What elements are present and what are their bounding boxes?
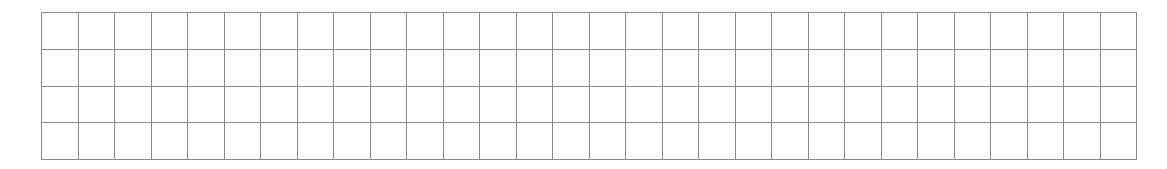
- grid-cell: [1064, 50, 1101, 87]
- grid-cell: [517, 13, 554, 50]
- grid-cell: [772, 50, 809, 87]
- grid-cell: [553, 87, 590, 124]
- grid-cell: [590, 13, 627, 50]
- grid-cell: [663, 13, 700, 50]
- grid-cell: [1028, 50, 1065, 87]
- grid-cell: [225, 123, 262, 160]
- grid-cell: [225, 50, 262, 87]
- grid-cell: [590, 87, 627, 124]
- grid-cell: [444, 50, 481, 87]
- grid-cell: [955, 13, 992, 50]
- grid-cell: [517, 123, 554, 160]
- grid-cell: [663, 50, 700, 87]
- grid-cell: [955, 123, 992, 160]
- grid-cell: [152, 13, 189, 50]
- grid-cell: [1101, 87, 1138, 124]
- grid-cell: [736, 123, 773, 160]
- grid-cell: [79, 13, 116, 50]
- grid-cell: [955, 87, 992, 124]
- grid-cell: [809, 50, 846, 87]
- grid-cell: [845, 13, 882, 50]
- grid-cell: [736, 50, 773, 87]
- grid-cell: [371, 123, 408, 160]
- grid-cell: [517, 50, 554, 87]
- grid-cell: [772, 123, 809, 160]
- grid-cell: [590, 50, 627, 87]
- grid-cell: [845, 50, 882, 87]
- grid-cell: [663, 123, 700, 160]
- grid-cell: [480, 87, 517, 124]
- grid-cell: [517, 87, 554, 124]
- grid-cell: [188, 87, 225, 124]
- grid-cell: [809, 13, 846, 50]
- grid-cell: [115, 123, 152, 160]
- grid-cell: [1064, 123, 1101, 160]
- grid-cell: [115, 50, 152, 87]
- grid-cell: [444, 123, 481, 160]
- grid-cell: [882, 13, 919, 50]
- grid-cell: [845, 123, 882, 160]
- grid-cell: [407, 50, 444, 87]
- grid-cell: [1028, 87, 1065, 124]
- grid-cell: [772, 13, 809, 50]
- grid-cell: [298, 87, 335, 124]
- grid-cell: [42, 87, 79, 124]
- grid-cell: [298, 123, 335, 160]
- grid-cell: [480, 123, 517, 160]
- grid-cell: [553, 50, 590, 87]
- grid-cell: [663, 87, 700, 124]
- grid-cell: [79, 87, 116, 124]
- grid-cell: [1064, 13, 1101, 50]
- grid-cell: [261, 50, 298, 87]
- grid-cell: [918, 123, 955, 160]
- grid-cell: [407, 13, 444, 50]
- grid-cell: [918, 13, 955, 50]
- grid-cell: [371, 50, 408, 87]
- grid-cell: [736, 13, 773, 50]
- grid-cell: [1064, 87, 1101, 124]
- grid-cell: [334, 87, 371, 124]
- grid-cell: [444, 87, 481, 124]
- grid-cell: [79, 50, 116, 87]
- grid-cell: [809, 123, 846, 160]
- grid-cell: [334, 50, 371, 87]
- grid-cell: [371, 13, 408, 50]
- grid-cell: [188, 50, 225, 87]
- grid-cell: [261, 13, 298, 50]
- grid-cell: [42, 13, 79, 50]
- grid-cell: [736, 87, 773, 124]
- grid-cell: [480, 13, 517, 50]
- grid-cell: [152, 87, 189, 124]
- grid-cell: [334, 13, 371, 50]
- grid-cell: [809, 87, 846, 124]
- grid-cell: [444, 13, 481, 50]
- grid-cell: [626, 13, 663, 50]
- grid-cell: [918, 87, 955, 124]
- grid-cell: [955, 50, 992, 87]
- grid-cell: [991, 50, 1028, 87]
- grid-cell: [152, 50, 189, 87]
- grid-cell: [553, 13, 590, 50]
- grid-cell: [699, 123, 736, 160]
- grid-cell: [152, 123, 189, 160]
- grid-cell: [1101, 123, 1138, 160]
- grid-cell: [261, 123, 298, 160]
- grid-cell: [188, 13, 225, 50]
- grid-cell: [298, 13, 335, 50]
- grid-cell: [480, 50, 517, 87]
- grid-cell: [699, 13, 736, 50]
- writing-grid: [41, 12, 1137, 160]
- grid-cell: [115, 13, 152, 50]
- grid-cell: [882, 50, 919, 87]
- grid-cell: [42, 50, 79, 87]
- grid-cell: [407, 87, 444, 124]
- grid-cell: [188, 123, 225, 160]
- grid-cell: [882, 123, 919, 160]
- grid-cell: [991, 87, 1028, 124]
- grid-cell: [42, 123, 79, 160]
- grid-cell: [261, 87, 298, 124]
- grid-cell: [1101, 13, 1138, 50]
- grid-cell: [79, 123, 116, 160]
- grid-cell: [918, 50, 955, 87]
- grid-cell: [1101, 50, 1138, 87]
